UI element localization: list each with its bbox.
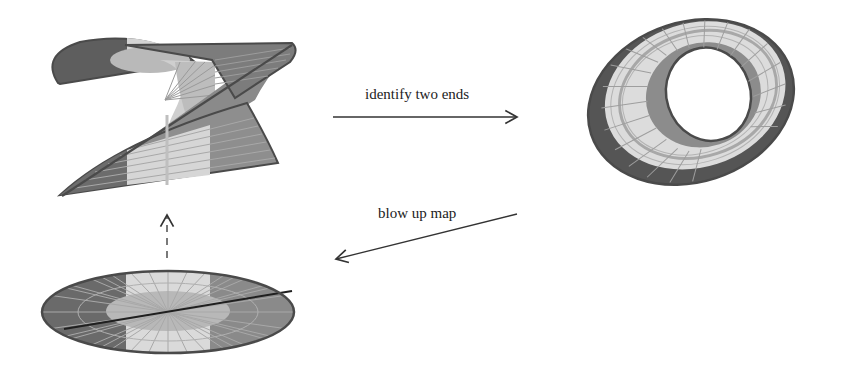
- blow-up-map-label: blow up map: [378, 205, 456, 222]
- elliptical-disc: [42, 268, 298, 358]
- identify-two-ends-label: identify two ends: [365, 86, 469, 103]
- diagram-canvas: [0, 0, 850, 373]
- helicoid-surface: [52, 38, 295, 196]
- mobius-loop: [566, 0, 815, 211]
